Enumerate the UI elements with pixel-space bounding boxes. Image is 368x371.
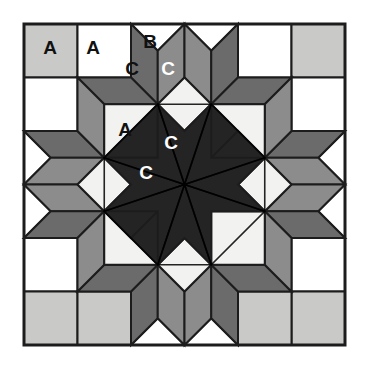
label-c-4: C [139,162,153,183]
edge-square-left-2 [24,238,78,292]
edge-square-bottom-left-lt [78,292,132,346]
label-b-1: B [143,31,157,52]
corner-square-top-right [292,24,346,78]
edge-square-right-bottom-lt [238,292,292,346]
edge-square-right-1 [292,78,346,132]
label-a-3: A [118,119,132,140]
label-a-1: A [43,37,57,58]
label-c-3: C [164,132,178,153]
edge-square-right-2 [292,238,346,292]
label-a-2: A [86,37,100,58]
edge-square-left-1 [24,78,78,132]
quilt-block-diagram: AABCCACC [0,0,368,371]
edge-square-top-2 [238,24,292,78]
quilt-block-figure: AABCCACC [0,0,368,371]
label-c-2: C [161,58,175,79]
corner-square-bottom-right [292,292,346,346]
label-c-1: C [125,58,139,79]
corner-square-bottom-left [24,292,78,346]
